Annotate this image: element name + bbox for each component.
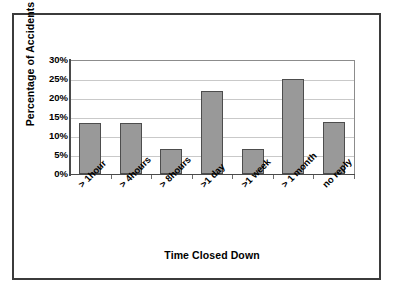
x-axis-title: Time Closed Down — [70, 249, 354, 261]
chart-figure: Percentage of Accidents 0%5%10%15%20%25%… — [0, 0, 395, 292]
y-tick-label: 0% — [38, 169, 68, 179]
y-tick-label: 10% — [38, 131, 68, 141]
x-tick-mark — [111, 175, 112, 179]
x-tick-mark — [151, 175, 152, 179]
y-axis-tick-labels: 0%5%10%15%20%25%30% — [38, 54, 68, 178]
x-tick-mark — [313, 175, 314, 179]
y-tick-label: 15% — [38, 112, 68, 122]
y-axis-title: Percentage of Accidents — [24, 0, 36, 139]
x-tick-mark — [354, 175, 355, 179]
x-tick-mark — [192, 175, 193, 179]
y-tick-label: 25% — [38, 74, 68, 84]
x-tick-mark — [232, 175, 233, 179]
y-tick-label: 20% — [38, 93, 68, 103]
y-tick-label: 30% — [38, 55, 68, 65]
y-tick-label: 5% — [38, 150, 68, 160]
x-tick-mark — [273, 175, 274, 179]
